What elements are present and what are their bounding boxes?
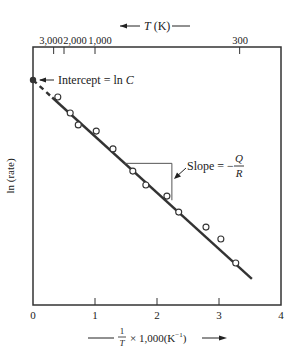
svg-text:T (K): T (K)	[144, 19, 170, 33]
x-axis-label-close: )	[183, 332, 187, 345]
fit-line-solid	[52, 97, 252, 278]
data-point	[203, 224, 209, 230]
x-axis-fraction-numerator: 1	[120, 326, 125, 336]
intercept-point	[30, 77, 36, 83]
top-tick-label: 300	[232, 35, 248, 46]
top-tick-label: 3,000	[39, 35, 63, 46]
top-tick-labels: 3,0002,0001,000300	[39, 35, 248, 46]
x-axis-fraction-denominator: T	[119, 338, 125, 348]
data-point	[93, 128, 99, 134]
bottom-ticks	[95, 298, 219, 305]
x-tick-label: 2	[154, 309, 160, 321]
data-point	[176, 209, 182, 215]
top-tick-label: 2,000	[63, 35, 87, 46]
y-axis-label: ln (rate)	[4, 158, 17, 193]
data-point	[218, 236, 224, 242]
x-axis-label-text: × 1,000(K	[130, 332, 175, 345]
data-point	[164, 193, 170, 199]
intercept-label: Intercept = ln	[58, 73, 126, 87]
data-point	[143, 182, 149, 188]
fit-line-extrapolated	[33, 80, 52, 97]
slope-denominator: R	[235, 167, 243, 179]
arrow-left-icon	[39, 78, 46, 83]
arrow-right-icon	[219, 336, 227, 341]
intercept-variable: C	[126, 73, 135, 87]
top-tick-label: 1,000	[88, 35, 112, 46]
data-point	[55, 94, 61, 100]
x-tick-label: 4	[278, 309, 284, 321]
slope-label: Slope = −	[187, 159, 234, 173]
x-tick-label: 0	[30, 309, 36, 321]
data-point	[110, 146, 116, 152]
data-point	[75, 122, 81, 128]
x-tick-label: 3	[216, 309, 222, 321]
svg-text:× 1,000(K−1): × 1,000(K−1)	[130, 331, 187, 345]
bottom-tick-labels: 01234	[30, 309, 284, 321]
top-axis-unit: (K)	[151, 19, 171, 33]
slope-numerator: Q	[235, 152, 243, 164]
arrhenius-plot: T (K) 3,0002,0001,000300 01234 ln (rate)…	[0, 0, 295, 363]
data-point	[130, 168, 136, 174]
arrow-left-icon	[120, 24, 127, 29]
svg-text:Intercept = ln C: Intercept = ln C	[58, 73, 135, 87]
slope-annotation: Slope = − Q R	[174, 152, 244, 179]
data-points	[55, 94, 239, 266]
intercept-annotation: Intercept = ln C	[39, 73, 135, 87]
fit-line	[33, 80, 252, 279]
top-ticks	[54, 47, 240, 54]
data-point	[67, 110, 73, 116]
data-point	[233, 260, 239, 266]
top-axis-title: T (K)	[120, 19, 190, 33]
x-tick-label: 1	[92, 309, 98, 321]
x-axis-label: 1 T × 1,000(K−1)	[88, 326, 227, 348]
